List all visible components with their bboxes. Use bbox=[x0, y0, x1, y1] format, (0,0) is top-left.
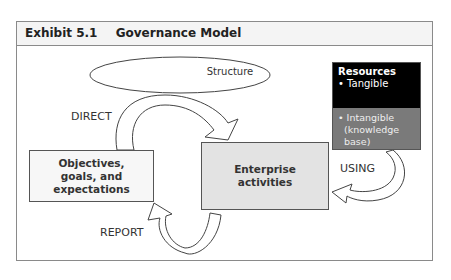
resources-tangible: • Tangible bbox=[338, 78, 415, 90]
enterprise-box: Enterprise activities bbox=[201, 142, 329, 210]
resources-tangible-section: Resources • Tangible bbox=[333, 63, 420, 108]
resources-intangible-note: (knowledge base) bbox=[338, 124, 415, 148]
objectives-box: Objectives, goals, and expectations bbox=[29, 150, 154, 202]
enterprise-line-1: Enterprise bbox=[234, 163, 296, 176]
resources-intangible-section: • Intangible (knowledge base) bbox=[333, 108, 420, 149]
objectives-line-3: expectations bbox=[53, 183, 129, 196]
enterprise-line-2: activities bbox=[234, 176, 296, 189]
resources-intangible: • Intangible bbox=[338, 112, 415, 124]
resources-box: Resources • Tangible • Intangible (knowl… bbox=[332, 62, 421, 150]
using-arrow bbox=[332, 150, 405, 203]
objectives-line-1: Objectives, bbox=[53, 157, 129, 170]
using-label: USING bbox=[340, 162, 375, 175]
direct-label: DIRECT bbox=[71, 110, 112, 123]
structure-label: Structure bbox=[160, 66, 300, 77]
report-label: REPORT bbox=[100, 226, 143, 239]
report-arrow bbox=[148, 203, 221, 254]
objectives-line-2: goals, and bbox=[53, 170, 129, 183]
resources-title: Resources bbox=[338, 66, 415, 78]
